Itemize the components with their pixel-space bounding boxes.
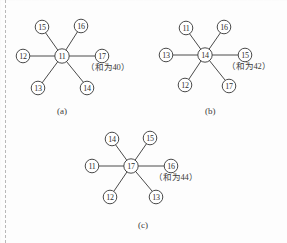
figure-b-diagram: 11 16 13 15 12 17	[147, 0, 287, 105]
figure-a: 15 16 12 17 13 14	[0, 0, 140, 105]
node-lower-right: 17	[222, 79, 236, 93]
node-left-label: 13	[162, 51, 170, 60]
node-center-label: 14	[201, 51, 209, 60]
node-center: 11	[55, 49, 69, 63]
node-upper-left-label: 15	[38, 23, 46, 32]
sum-note: （和为40）	[86, 60, 129, 72]
node-center-label: 17	[127, 162, 135, 171]
node-lower-left: 12	[178, 78, 192, 92]
node-upper-left-label: 11	[182, 24, 189, 33]
node-lower-left-label: 12	[181, 81, 189, 90]
node-lower-right: 14	[80, 81, 94, 95]
node-upper-right: 16	[217, 20, 231, 34]
node-center: 17	[124, 159, 138, 173]
node-lower-left: 13	[31, 81, 45, 95]
node-upper-left: 14	[105, 132, 119, 146]
node-upper-right-label: 15	[146, 134, 154, 143]
node-center: 14	[198, 48, 212, 62]
node-lower-right-label: 17	[225, 82, 233, 91]
node-upper-left-label: 14	[108, 135, 116, 144]
sum-note: （和为42）	[227, 59, 270, 71]
node-lower-left-label: 13	[34, 84, 42, 93]
node-lower-left: 12	[103, 190, 117, 204]
node-lower-left-label: 12	[106, 193, 114, 202]
node-upper-left: 11	[179, 21, 193, 35]
node-center-label: 11	[58, 52, 65, 61]
node-lower-right-label: 14	[83, 84, 91, 93]
node-upper-left: 15	[35, 20, 49, 34]
node-upper-right-label: 16	[220, 23, 228, 32]
figure-caption: (b)	[205, 106, 216, 116]
scanned-page: 15 16 12 17 13 14	[0, 0, 287, 243]
node-lower-right-label: 13	[152, 193, 160, 202]
node-left: 12	[16, 49, 30, 63]
figure-caption: (c)	[138, 220, 148, 230]
sum-note: （和为44）	[154, 170, 197, 182]
node-left-label: 11	[88, 162, 95, 171]
figure-a-diagram: 15 16 12 17 13 14	[0, 0, 140, 105]
figure-b: 11 16 13 15 12 17	[147, 0, 287, 105]
node-upper-right: 16	[74, 19, 88, 33]
node-left: 13	[159, 48, 173, 62]
figure-c: 14 15 11 16 12 13	[72, 124, 217, 224]
node-lower-right: 13	[149, 190, 163, 204]
node-left: 11	[85, 159, 99, 173]
node-upper-right: 15	[143, 131, 157, 145]
node-upper-right-label: 16	[77, 22, 85, 31]
figure-caption: (a)	[57, 106, 67, 116]
node-left-label: 12	[19, 52, 27, 61]
